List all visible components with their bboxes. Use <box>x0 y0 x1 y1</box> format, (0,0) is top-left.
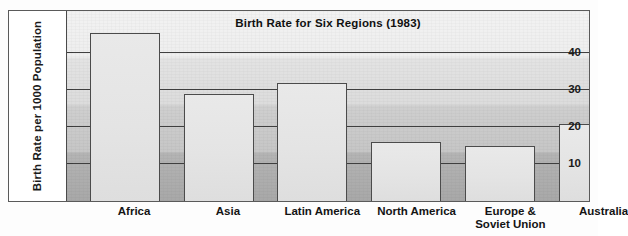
x-label-australia: Australia <box>579 205 628 218</box>
y-tick-mark-10 <box>67 163 73 164</box>
chart-title: Birth Rate for Six Regions (1983) <box>67 17 589 29</box>
bar-africa <box>90 33 160 201</box>
y-axis-title: Birth Rate per 1000 Population <box>31 16 43 196</box>
y-tick-label-40: 40 <box>568 46 581 58</box>
x-label-europe-soviet-union: Europe & Soviet Union <box>475 205 545 231</box>
x-label-latin-america: Latin America <box>284 205 360 218</box>
plot-area: Birth Rate for Six Regions (1983) <box>67 11 589 201</box>
y-tick-mark-30 <box>67 89 73 90</box>
y-tick-label-30: 30 <box>568 83 581 95</box>
y-tick-mark-20 <box>67 126 73 127</box>
bar-latin-america <box>277 83 347 201</box>
y-axis-band: Birth Rate per 1000 Population <box>9 11 67 201</box>
x-label-africa: Africa <box>118 205 151 218</box>
x-label-asia: Asia <box>216 205 240 218</box>
chart-frame: Birth Rate per 1000 Population Birth Rat… <box>8 10 590 202</box>
y-tick-label-20: 20 <box>568 120 581 132</box>
x-label-north-america: North America <box>377 205 456 218</box>
y-tick-mark-40 <box>67 52 73 53</box>
bar-north-america <box>371 142 441 201</box>
bar-asia <box>184 94 254 201</box>
y-tick-label-10: 10 <box>568 157 581 169</box>
bar-europe-soviet-union <box>465 146 535 201</box>
x-axis-category-labels: Africa Asia Latin America North America … <box>66 205 590 236</box>
